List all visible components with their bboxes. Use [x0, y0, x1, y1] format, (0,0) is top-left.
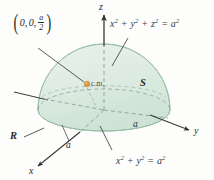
cm-dot: [84, 81, 90, 87]
coord-x: 0,: [20, 18, 29, 28]
coord-z-fraction: a 2: [38, 14, 44, 32]
y-axis-label: y: [194, 126, 198, 136]
surface-label-S: S: [140, 78, 146, 89]
radius-label-x: a: [66, 141, 71, 151]
open-paren: (: [13, 14, 18, 33]
region-label-R: R: [10, 131, 17, 142]
center-of-mass-label: c.m.: [91, 80, 104, 88]
circle-equation: x2 + y2 = a2: [116, 155, 166, 166]
x-axis: [38, 132, 80, 166]
cm-dot-highlight: [85, 82, 87, 84]
coord-y: 0,: [29, 18, 38, 28]
radius-label-y: a: [133, 120, 138, 130]
hemisphere-figure: ( 0, 0, a 2 ) x2 + y2 + z2 = a2 x2 + y2 …: [0, 0, 214, 180]
sphere-equation: x2 + y2 + z2 = a2: [110, 18, 179, 29]
center-of-mass-coordinate-label: ( 0, 0, a 2 ): [12, 14, 52, 33]
leader-region-R: [24, 128, 44, 137]
z-axis-label: z: [99, 2, 103, 12]
fraction-numerator: a: [38, 14, 44, 23]
x-axis-label: x: [29, 166, 33, 176]
fraction-denominator: 2: [38, 23, 44, 32]
close-paren: ): [46, 14, 51, 33]
